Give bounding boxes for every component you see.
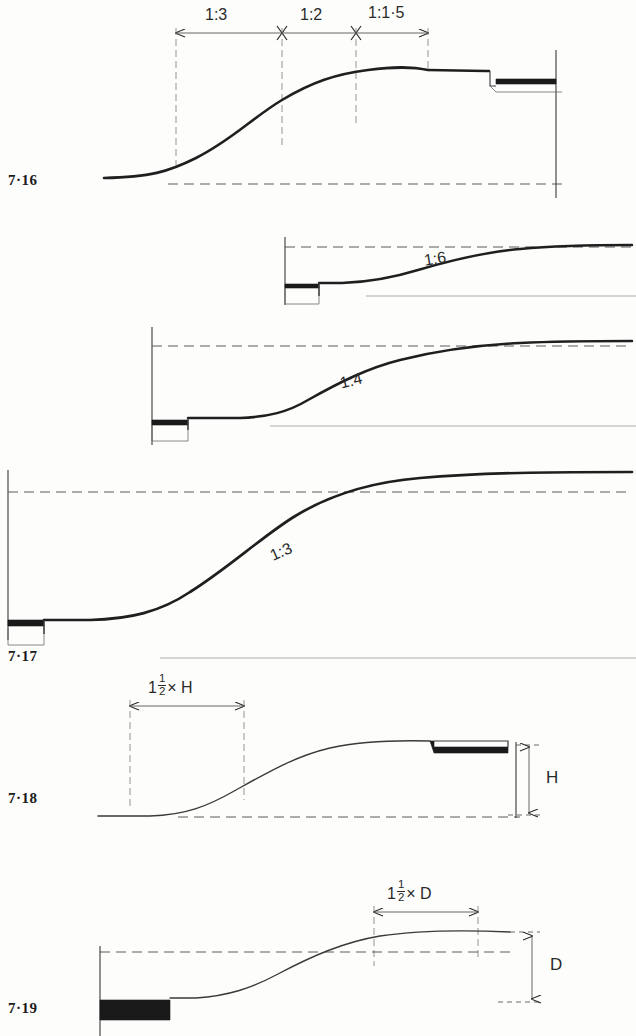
profile-crest-716 [428, 70, 490, 71]
ratio-label-1-6: 1:6 [423, 248, 448, 269]
drawing-sheet: 7·16 1:3 1:2 1:1·5 1:6 1:4 1:3 7·17 112×… [0, 0, 636, 1036]
profile-curve-14 [188, 341, 632, 418]
half-fraction-h: 12 [158, 673, 166, 697]
ratio-label-1-2: 1:2 [300, 6, 322, 24]
step-riser-716 [490, 71, 496, 86]
half-d-suffix: × D [406, 885, 431, 902]
figure-1-4-geometry [152, 327, 636, 445]
half-h-numerator: 1 [158, 673, 166, 686]
figure-number-7-19: 7·19 [8, 1000, 38, 1017]
solid-band-717 [8, 620, 44, 626]
figure-number-7-18: 7·18 [8, 790, 38, 807]
half-h-prefix: 1 [148, 679, 157, 696]
ratio-label-1-3-first: 1:3 [205, 6, 227, 24]
ratio-label-1-1-5: 1:1·5 [368, 4, 404, 22]
figure-1-6-geometry [285, 237, 636, 305]
solid-band-719 [100, 1000, 170, 1020]
step-top-718 [434, 741, 508, 747]
solid-band-16 [285, 284, 319, 288]
half-h-suffix: × H [167, 679, 192, 696]
half-h-denominator: 2 [158, 686, 166, 698]
profile-curve-717 [44, 472, 632, 620]
figure-7-19-geometry [100, 906, 540, 1036]
half-d-numerator: 1 [397, 879, 405, 892]
half-d-prefix: 1 [387, 885, 396, 902]
vertical-dimension-label-d: D [550, 955, 562, 975]
figure-7-18-geometry [98, 700, 540, 818]
drawing-vector-layer [0, 0, 636, 1036]
half-fraction-d: 12 [397, 879, 405, 903]
solid-band-716 [496, 79, 556, 84]
dimension-label-half-d: 112× D [387, 879, 432, 903]
step-outline-16 [285, 286, 319, 304]
figure-number-7-17: 7·17 [8, 648, 38, 665]
profile-curve-716 [104, 67, 428, 178]
solid-band-14 [152, 420, 188, 425]
profile-curve-719 [170, 931, 510, 998]
solid-band-718 [430, 741, 508, 753]
step-face-716 [490, 86, 496, 92]
dimension-label-half-h: 112× H [148, 673, 193, 697]
figure-number-7-16: 7·16 [8, 172, 38, 189]
profile-curve-718 [98, 741, 430, 816]
step-outline-717 [8, 624, 44, 645]
profile-curve-16 [319, 245, 632, 283]
vertical-dimension-label-h: H [546, 768, 558, 788]
figure-7-16-geometry [104, 26, 562, 198]
half-d-denominator: 2 [397, 892, 405, 904]
figure-7-17-geometry [8, 470, 636, 658]
